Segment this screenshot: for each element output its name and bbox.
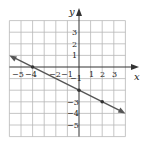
tick-label: −4 [67, 109, 79, 118]
x-axis-label: x [134, 71, 140, 82]
tick-label: −5 [12, 70, 24, 79]
tick-label: 3 [72, 28, 77, 37]
point-0-neg2 [77, 88, 81, 92]
tick-label: 3 [112, 70, 117, 79]
x-tick-labels: −5 −4 −2 −1 1 2 3 [12, 70, 117, 79]
coordinate-plane: x y −5 −4 −2 −1 1 2 3 3 2 1 −1 −3 −4 −5 [0, 0, 146, 146]
tick-label: −4 [25, 70, 37, 79]
y-tick-labels: 3 2 1 −1 −3 −4 −5 [67, 28, 82, 130]
point-neg4-0 [31, 65, 35, 69]
point-2-neg3 [100, 100, 104, 104]
y-axis-label: y [68, 6, 75, 17]
tick-label: 2 [72, 40, 77, 49]
x-axis-arrow-icon [131, 64, 139, 70]
tick-label: −3 [67, 98, 79, 107]
y-axis-arrow-icon [76, 8, 82, 16]
tick-label: −5 [67, 121, 79, 130]
tick-label: 1 [89, 70, 94, 79]
tick-label: −1 [70, 74, 82, 83]
line-right-arrow-icon [118, 107, 126, 113]
tick-label: 2 [100, 70, 105, 79]
tick-label: 1 [72, 51, 77, 60]
line-left-arrow-icon [9, 55, 17, 61]
